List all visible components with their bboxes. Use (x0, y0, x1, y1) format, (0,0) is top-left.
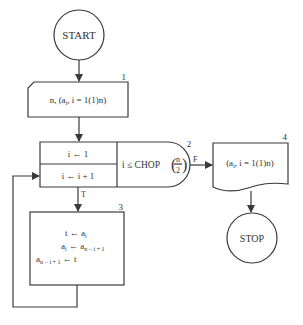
loop-number: 2 (187, 139, 192, 149)
output-number: 4 (283, 132, 288, 142)
input-text: n, (ai, i = 1(1)n) (50, 95, 107, 106)
input-node: 1 n, (ai, i = 1(1)n) (28, 72, 128, 117)
output-node: 4 (ai, i = 1(1)n) (213, 132, 288, 191)
cond-denominator: 2 (176, 166, 180, 175)
loop-node: 2 i ← 1 i ← i + 1 i ≤ CHOP ( n 2 ) (40, 139, 191, 187)
start-label: START (62, 29, 96, 41)
flowchart: START 1 n, (ai, i = 1(1)n) 2 i ← 1 i ← i… (0, 0, 303, 325)
paren-right: ) (182, 156, 187, 174)
loop-init: i ← 1 (68, 149, 89, 159)
swap-node: 3 t ← ai ai ← an − i + 1 an − i + 1 ← t (30, 202, 124, 285)
true-label: T (81, 190, 86, 199)
cond-numerator: n (176, 155, 180, 164)
loop-increment: i ← i + 1 (62, 171, 95, 181)
start-node: START (54, 10, 104, 60)
swap-number: 3 (119, 202, 124, 212)
stop-label: STOP (240, 233, 265, 244)
stop-node: STOP (227, 213, 277, 263)
loop-condition: i ≤ CHOP (122, 160, 160, 170)
false-label: F (193, 155, 198, 164)
swap-line-1: t ← ai (65, 228, 87, 239)
input-number: 1 (122, 72, 127, 82)
